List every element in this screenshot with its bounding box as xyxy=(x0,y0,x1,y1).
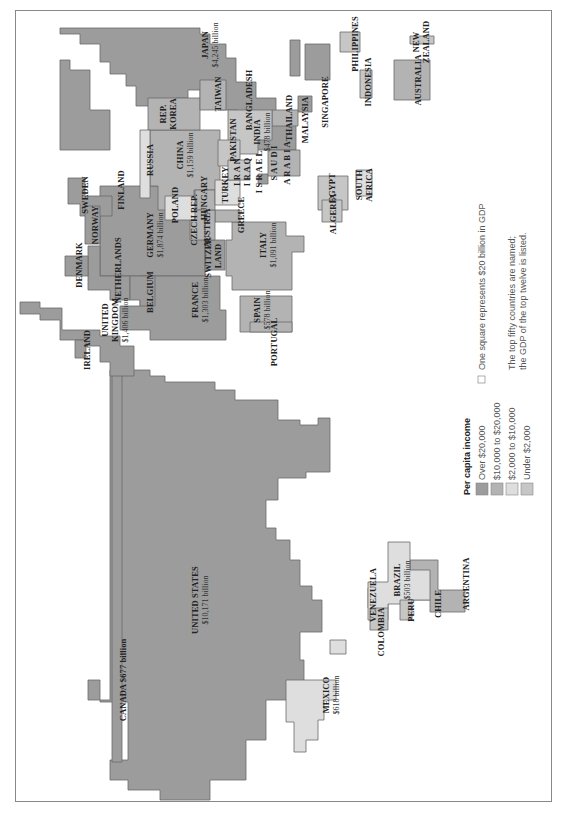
label-russia: RUSSIA xyxy=(145,143,155,176)
gdp-japan: $4,245 billion xyxy=(211,23,220,68)
gdp-cartogram: UNITED STATES $10,171 billion CANADA $67… xyxy=(0,0,569,816)
label-norway: NORWAY xyxy=(90,206,100,244)
label-china: CHINA xyxy=(175,140,185,170)
label-saudi: S A U D I xyxy=(269,145,279,181)
gdp-uk: $1,406 billion xyxy=(121,298,130,343)
label-spain: SPAIN xyxy=(252,297,262,323)
label-netherlands: NETHERLANDS xyxy=(113,237,123,303)
label-sweden: SWEDEN xyxy=(80,176,90,214)
label-south-africa-line1: SOUTH xyxy=(354,170,364,201)
gdp-brazil: $503 billion xyxy=(403,561,412,600)
label-singapore: SINGAPORE xyxy=(320,76,330,128)
legend-title: Per capita income xyxy=(462,418,472,495)
label-iran: I R A N xyxy=(232,157,242,186)
label-israel: I S R A E L xyxy=(254,151,264,194)
label-malaysia: MALAYSIA xyxy=(300,96,310,143)
label-switzerland-line2: LAND xyxy=(213,244,223,269)
gdp-mexico: $618 billion xyxy=(332,676,341,715)
label-korea-line1: REP. xyxy=(158,105,168,124)
label-ireland: IRELAND xyxy=(82,330,92,370)
label-germany: GERMANY xyxy=(145,212,155,258)
legend-swatch-over20k xyxy=(476,483,488,495)
legend-note-line2: the GDP of the top twelve is listed. xyxy=(518,233,528,370)
label-uk-line1: UNITED xyxy=(100,303,110,337)
gdp-germany: $1,874 billion xyxy=(156,213,165,258)
legend: Per capita income Over $20,000 $10,000 t… xyxy=(462,203,533,495)
country-south-america-tail xyxy=(330,640,346,654)
label-portugal: PORTUGAL xyxy=(269,317,279,366)
legend-swatch-under2k xyxy=(521,483,533,495)
label-chile: CHILE xyxy=(433,590,443,618)
label-korea-line2: KOREA xyxy=(168,97,178,129)
label-finland: FINLAND xyxy=(116,170,126,209)
label-algeria: ALGERIA xyxy=(328,193,338,234)
label-pakistan: PAKISTAN xyxy=(228,118,238,162)
label-switzerland-line1: SWITZER- xyxy=(203,234,213,277)
label-brazil: BRAZIL xyxy=(392,563,402,596)
label-poland: POLAND xyxy=(170,187,180,224)
label-czech: CZECH REP. xyxy=(189,194,199,246)
label-japan: JAPAN xyxy=(200,30,210,58)
gdp-france: $1,303 billion xyxy=(201,278,210,323)
legend-note-line1: The top fifty countries are named; xyxy=(507,236,517,370)
label-indonesia: INDONESIA xyxy=(363,57,373,107)
gdp-united-states: $10,171 billion xyxy=(201,576,210,625)
legend-swatch-10to20k xyxy=(491,483,503,495)
country-australia-dark xyxy=(305,44,330,80)
label-taiwan: TAIWAN xyxy=(213,76,223,112)
label-uk-line2: KINGDOM xyxy=(110,298,120,342)
legend-label-2to10k: $2,000 to $10,000 xyxy=(507,407,517,480)
legend-swatch-2to10k xyxy=(506,483,518,495)
legend-label-10to20k: $10,000 to $20,000 xyxy=(492,402,502,480)
label-colombia: COLOMBIA xyxy=(376,607,386,657)
label-canada: CANADA $677 billion xyxy=(118,639,128,722)
legend-label-under2k: Under $2,000 xyxy=(522,425,532,480)
label-denmark: DENMARK xyxy=(74,242,84,288)
legend-square-icon xyxy=(478,376,485,383)
gdp-china: $1,159 billion xyxy=(186,133,195,178)
label-argentina: ARGENTINA xyxy=(461,557,471,611)
label-turkey: TURKEY xyxy=(220,167,230,204)
country-australia xyxy=(394,60,430,100)
legend-square-text: One square represents $20 billion in GDP xyxy=(477,203,487,370)
gdp-italy: $1,091 billion xyxy=(269,223,278,268)
label-arabia: A R A B I A xyxy=(282,141,292,185)
label-bangladesh: BANGLADESH xyxy=(244,69,254,130)
label-peru: PERU xyxy=(406,598,416,622)
country-taiwan-dark xyxy=(290,40,300,76)
label-united-states: UNITED STATES xyxy=(190,566,200,634)
label-nz-line2: ZEALAND xyxy=(421,21,431,63)
legend-label-over20k: Over $20,000 xyxy=(477,425,487,480)
label-france: FRANCE xyxy=(190,282,200,318)
label-thailand: THAILAND xyxy=(284,95,294,142)
label-belgium: BELGIUM xyxy=(145,271,155,313)
label-south-africa-line2: AFRICA xyxy=(364,167,374,201)
label-greece: GREECE xyxy=(236,197,246,234)
country-japan-north xyxy=(60,60,110,150)
label-iraq: I R A Q xyxy=(242,158,252,187)
label-mexico: MEXICO xyxy=(321,676,331,713)
label-philippines: PHILIPPINES xyxy=(350,16,360,72)
label-nz-line1: NEW xyxy=(411,31,421,52)
label-italy: ITALY xyxy=(258,232,268,258)
